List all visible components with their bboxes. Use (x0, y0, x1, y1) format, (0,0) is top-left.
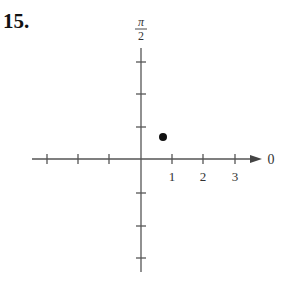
data-point (159, 133, 167, 141)
tick-label-1: 1 (169, 169, 176, 184)
polar-axis-label: 0 (268, 152, 275, 167)
pi-label: π (138, 15, 145, 29)
tick-label-3: 3 (232, 169, 239, 184)
denominator-label: 2 (138, 29, 144, 43)
arrow-right-icon (250, 155, 262, 163)
polar-plot: 1 2 3 0 π 2 (0, 0, 283, 291)
tick-label-2: 2 (200, 169, 207, 184)
